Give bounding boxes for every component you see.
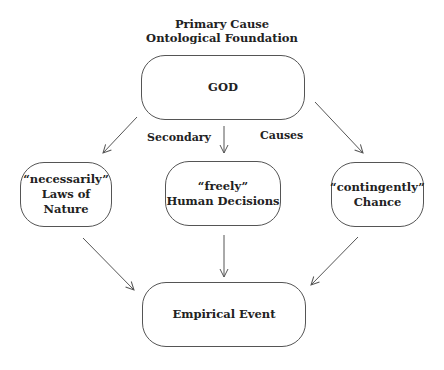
event-label: Empirical Event xyxy=(172,307,275,322)
arrow-chance-to-event xyxy=(311,237,358,285)
god-label: GOD xyxy=(208,80,238,95)
laws-label: Laws of Nature xyxy=(21,187,111,217)
chance-node: “contingently” Chance xyxy=(331,162,424,227)
human-qualifier: “freely” xyxy=(198,179,248,194)
laws-qualifier: “necessarily” xyxy=(23,172,109,187)
chance-qualifier: “contingently” xyxy=(330,180,425,195)
god-node: GOD xyxy=(141,55,305,120)
causes-label: Causes xyxy=(260,129,303,142)
human-label: Human Decisions xyxy=(166,194,279,209)
chance-label: Chance xyxy=(354,195,402,210)
arrow-god-to-chance xyxy=(315,102,363,153)
arrow-god-to-laws xyxy=(103,117,137,153)
laws-of-nature-node: “necessarily” Laws of Nature xyxy=(20,162,112,227)
human-decisions-node: “freely” Human Decisions xyxy=(165,161,281,226)
secondary-label: Secondary xyxy=(147,131,211,144)
arrow-laws-to-event xyxy=(83,238,134,290)
empirical-event-node: Empirical Event xyxy=(142,282,306,347)
